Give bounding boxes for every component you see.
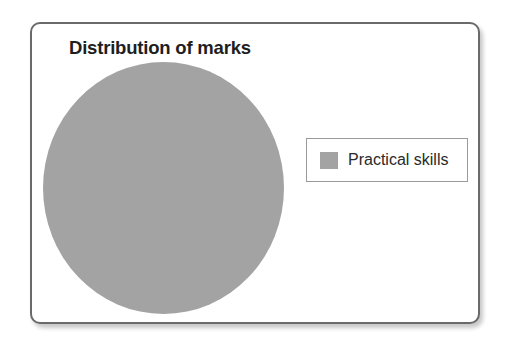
pie-slice-practical-skills: [43, 62, 284, 314]
chart-frame: Distribution of marks Practical skills: [30, 22, 480, 324]
pie-chart: [43, 62, 284, 314]
legend-swatch-practical-skills: [320, 152, 338, 169]
legend-label-practical-skills: Practical skills: [348, 151, 448, 169]
chart-legend: Practical skills: [306, 138, 468, 182]
chart-title: Distribution of marks: [69, 37, 251, 59]
